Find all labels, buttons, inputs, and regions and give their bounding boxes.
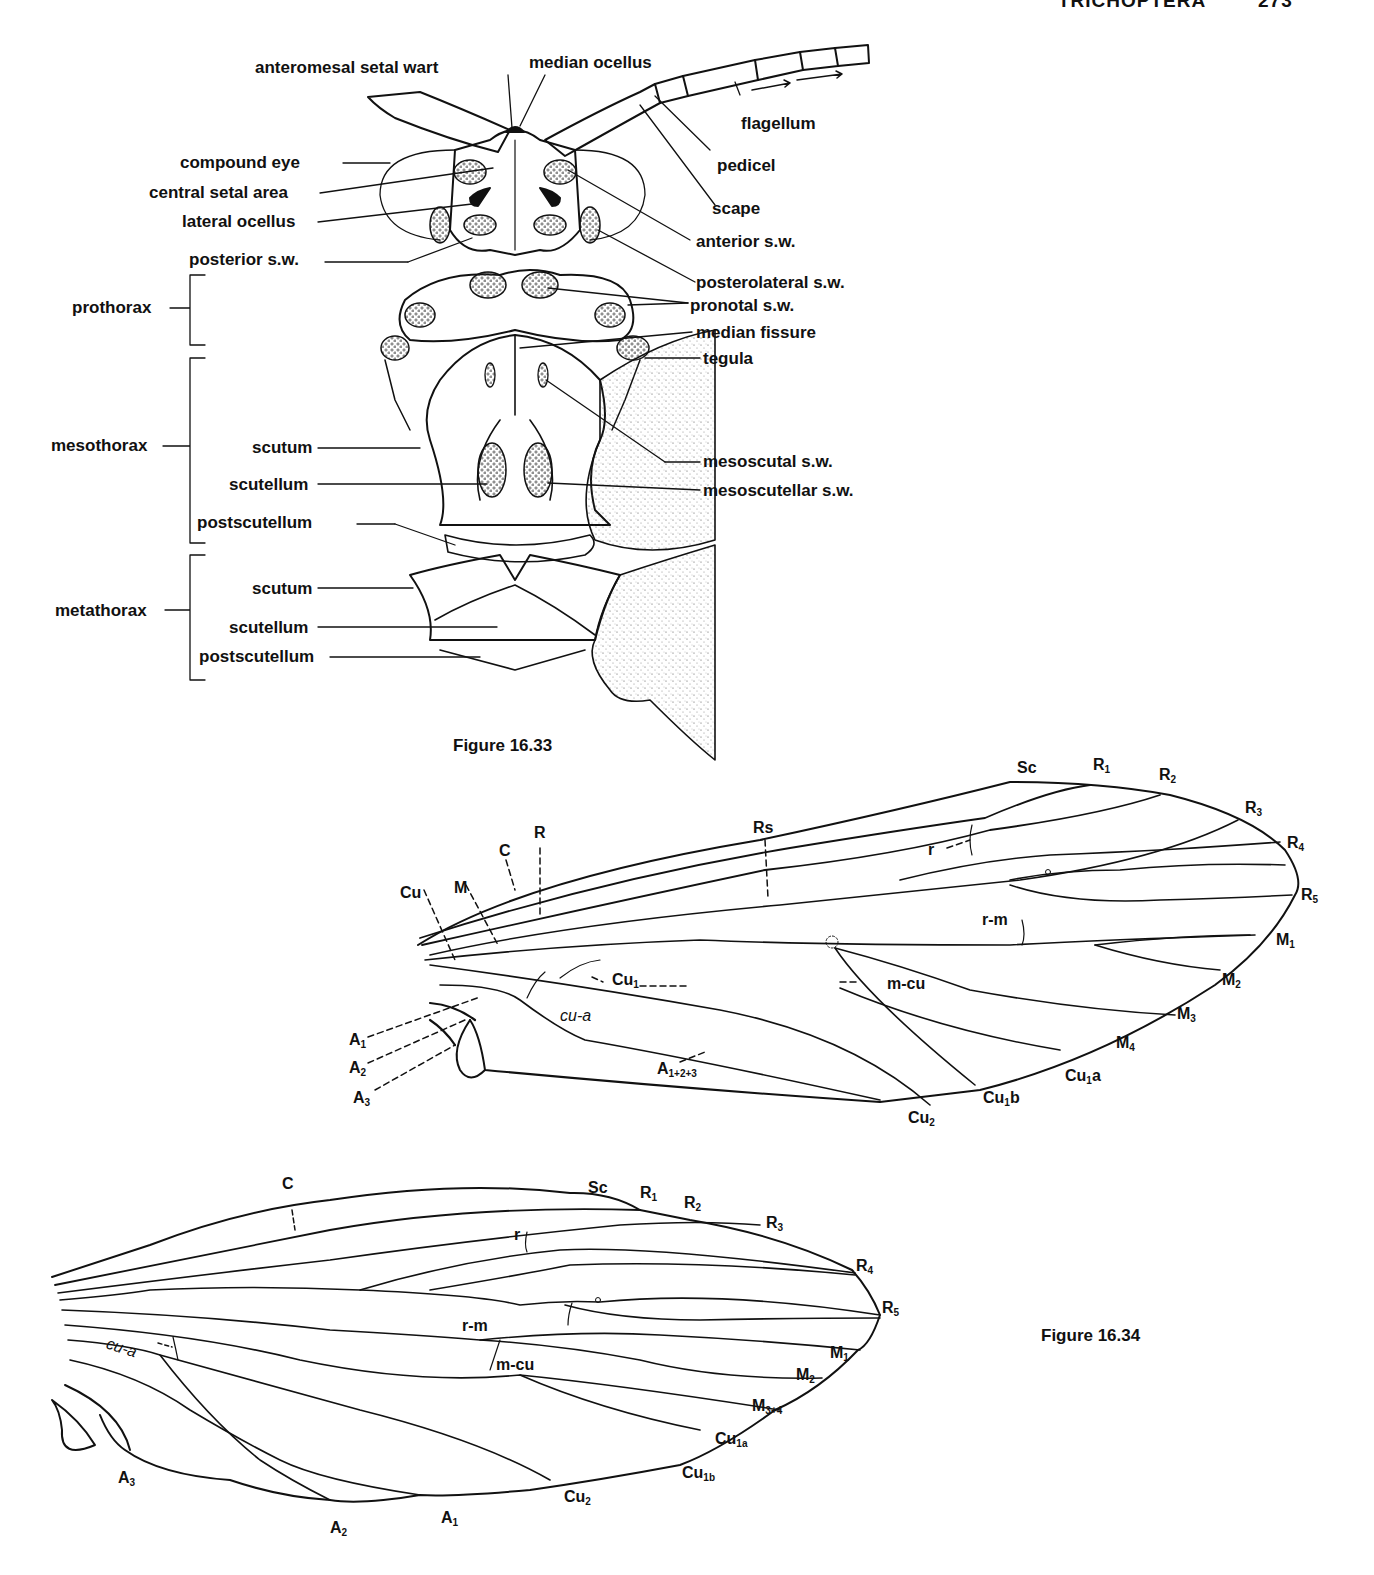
label-anterior-sw: anterior s.w. [696,233,796,250]
label-anteromesal-setal-wart: anteromesal setal wart [255,59,438,76]
label-lateral-ocellus: lateral ocellus [182,213,295,230]
head-drawing [368,45,869,255]
metathorax-drawing [410,555,620,670]
label-hw-r: r [514,1227,520,1243]
label-meta-postscutellum: postscutellum [199,648,314,665]
label-fw-Sc: Sc [1017,760,1037,776]
label-fw-A123: A1+2+3 [657,1061,697,1079]
label-fw-r: r [928,842,934,858]
label-fw-rm: r-m [982,912,1008,928]
label-fw-M: M [454,880,467,896]
label-fw-R2: R2 [1159,767,1176,785]
forewing-drawing [368,782,1298,1105]
label-pedicel: pedicel [717,157,776,174]
label-fw-A1: A1 [349,1032,366,1050]
label-median-fissure: median fissure [696,324,816,341]
label-fw-R: R [534,825,546,841]
figure-caption-16-34: Figure 16.34 [1041,1326,1140,1346]
label-mesoscutal-sw: mesoscutal s.w. [703,453,833,470]
label-meta-scutum: scutum [252,580,312,597]
label-fw-mcu: m-cu [887,976,925,992]
label-meso-postscutellum: postscutellum [197,514,312,531]
label-tegula: tegula [703,350,753,367]
label-scape: scape [712,200,760,217]
label-hw-R4: R4 [856,1258,873,1276]
label-fw-R5: R5 [1301,887,1318,905]
label-posterior-sw: posterior s.w. [189,251,299,268]
label-hw-R2: R2 [684,1195,701,1213]
label-mesoscutellar-sw: mesoscutellar s.w. [703,482,854,499]
hindwing-base-stipple [592,545,715,760]
label-hw-R1: R1 [640,1185,657,1203]
label-mesothorax: mesothorax [51,437,147,454]
label-fw-Cu1a: Cu1a [1065,1068,1101,1086]
label-prothorax: prothorax [72,299,151,316]
label-fw-Cu1: Cu1 [612,972,639,990]
label-hw-Cu1a: Cu1a [715,1431,747,1449]
label-fw-M2: M2 [1222,972,1241,990]
label-fw-M3: M3 [1177,1006,1196,1024]
label-meta-scutellum: scutellum [229,619,308,636]
label-pronotal-sw: pronotal s.w. [690,297,794,314]
label-hw-rm: r-m [462,1318,488,1334]
label-fw-M4: M4 [1116,1035,1135,1053]
label-meso-scutellum: scutellum [229,476,308,493]
label-hw-mcu: m-cu [496,1357,534,1373]
label-meso-scutum: scutum [252,439,312,456]
label-hw-A2: A2 [330,1520,347,1538]
label-fw-R3: R3 [1245,800,1262,818]
label-fw-Cu: Cu [400,885,421,901]
label-fw-M1: M1 [1276,932,1295,950]
label-fw-A2: A2 [349,1060,366,1078]
label-hw-M1: M1 [830,1345,849,1363]
figure-caption-16-33: Figure 16.33 [453,736,552,756]
label-flagellum: flagellum [741,115,816,132]
label-hw-Sc: Sc [588,1180,608,1196]
label-fw-R4: R4 [1287,835,1304,853]
label-hw-M34: M3+4 [752,1398,782,1416]
label-fw-A3: A3 [353,1090,370,1108]
label-fw-Rs: Rs [753,820,773,836]
label-fw-cua: cu-a [560,1008,591,1024]
hindwing-drawing [52,1188,880,1502]
label-central-setal-area: central setal area [149,184,288,201]
label-posterolateral-sw: posterolateral s.w. [696,274,845,291]
label-fw-Cu2: Cu2 [908,1110,935,1128]
label-hw-A1: A1 [441,1510,458,1528]
label-hw-A3: A3 [118,1470,135,1488]
label-fw-R1: R1 [1093,757,1110,775]
label-hw-C: C [282,1176,294,1192]
figure-artwork [0,0,1374,1575]
label-metathorax: metathorax [55,602,147,619]
prothorax-drawing [400,270,634,341]
label-hw-Cu1b: Cu1b [682,1465,715,1483]
label-fw-C: C [499,843,511,859]
label-hw-Cu2: Cu2 [564,1489,591,1507]
label-hw-R5: R5 [882,1300,899,1318]
label-hw-M2: M2 [796,1367,815,1385]
label-median-ocellus: median ocellus [529,54,652,71]
label-compound-eye: compound eye [180,154,300,171]
forewing-base-stipple [586,330,715,550]
label-fw-Cu1b: Cu1b [983,1090,1020,1108]
label-hw-R3: R3 [766,1215,783,1233]
